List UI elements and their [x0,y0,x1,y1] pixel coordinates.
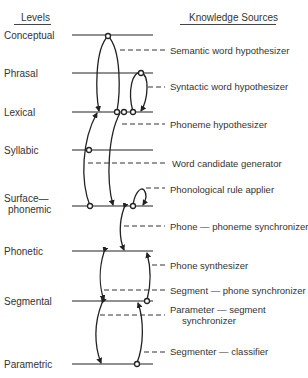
arc-phone-synthesizer [147,253,150,300]
arc-phoneme-up [84,113,97,206]
arc-segmental-parametric-left [96,303,102,363]
arc-word-candidate-down [109,113,120,205]
diagram-graphic [0,0,308,378]
arc-syntactic-down [141,73,147,111]
arc-phonological-down [143,190,146,205]
node-phrasal [139,71,144,76]
arc-phone-phoneme [120,208,124,250]
arc-segmenter [137,303,142,363]
node-lexical-b [122,110,127,115]
arc-phonetic-segmental-left [100,252,104,300]
node-lexical-c [131,110,136,115]
node-segmental [145,299,150,304]
arc-syntactic-up [131,73,141,112]
node-syllabic [87,148,92,153]
node-surface-b [131,204,136,209]
node-parametric [135,362,140,367]
node-surface-a [88,204,93,209]
node-conceptual [106,34,111,39]
node-lexical-a [115,110,120,115]
